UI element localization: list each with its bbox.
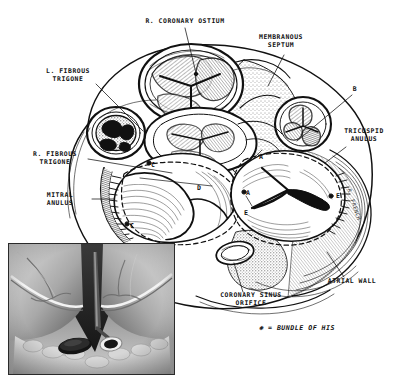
figure-canvas: R. CORONARY OSTIUM MEMBRANOUS SEPTUM L. … bbox=[0, 0, 403, 380]
label-coronary-sinus-orifice: CORONARY SINUS ORIFICE bbox=[196, 291, 306, 307]
marker-c-lower: C bbox=[130, 222, 134, 230]
label-point-b: B bbox=[348, 85, 362, 93]
marker-a-lower: A bbox=[246, 189, 250, 197]
marker-e-right: E bbox=[336, 192, 340, 200]
legend-bundle-of-his: ✻ = BUNDLE OF HIS bbox=[259, 324, 335, 332]
label-r-fibrous-trigone: R. FIBROUS TRIGONE bbox=[13, 150, 97, 166]
top-cropped-text bbox=[0, 0, 403, 12]
label-membranous-septum: MEMBRANOUS SEPTUM bbox=[244, 33, 318, 49]
operative-photograph-inset bbox=[8, 243, 175, 375]
marker-d: D bbox=[197, 184, 201, 192]
marker-e-left: E bbox=[244, 209, 248, 217]
label-atrial-wall: ATRIAL WALL bbox=[311, 277, 393, 285]
label-l-fibrous-trigone: L. FIBROUS TRIGONE bbox=[26, 67, 110, 83]
label-mitral-anulus: MITRAL ANULUS bbox=[22, 191, 98, 207]
label-tricuspid-anulus: TRICUSPID ANULUS bbox=[325, 127, 403, 143]
marker-c-upper: C bbox=[151, 161, 155, 169]
marker-a-upper: A bbox=[259, 153, 263, 161]
label-r-coronary-ostium: R. CORONARY OSTIUM bbox=[133, 17, 237, 25]
